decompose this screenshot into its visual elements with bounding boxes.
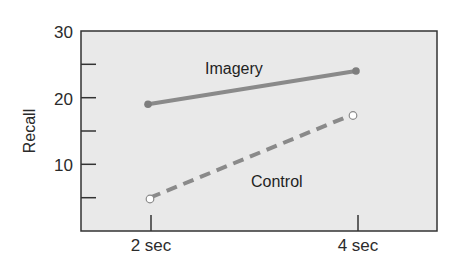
control-point-4sec — [349, 112, 357, 120]
imagery-point-2sec — [144, 101, 152, 109]
x-tick-label-4sec: 4 sec — [338, 236, 379, 255]
series-label-imagery: Imagery — [205, 60, 263, 77]
imagery-point-4sec — [352, 67, 360, 75]
y-tick-label-20: 20 — [54, 90, 73, 109]
y-axis-title: Recall — [21, 109, 38, 153]
line-chart: 30 20 10 2 sec 4 sec Recall Imagery Cont… — [0, 0, 461, 263]
x-tick-label-2sec: 2 sec — [131, 236, 172, 255]
y-tick-label-30: 30 — [54, 23, 73, 42]
control-point-2sec — [146, 195, 154, 203]
series-label-control: Control — [251, 173, 303, 190]
y-tick-label-10: 10 — [54, 156, 73, 175]
